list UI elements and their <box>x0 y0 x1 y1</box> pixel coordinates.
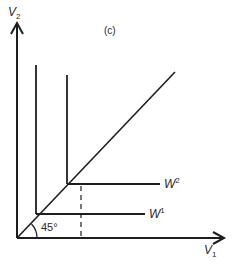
x-axis <box>17 232 224 244</box>
x-axis-label: V1 <box>204 244 216 259</box>
y-axis-label-subscript: 2 <box>16 12 20 21</box>
curve-label-w2: W2 <box>164 177 180 190</box>
y-axis <box>11 23 23 238</box>
y-axis-label-text: V <box>8 5 16 19</box>
x-axis-label-subscript: 1 <box>212 250 216 259</box>
indifference-diagram <box>0 0 232 264</box>
x-axis-label-text: V <box>204 243 212 257</box>
curve-label-w1-text: W <box>149 207 160 221</box>
curve-label-w2-superscript: 2 <box>175 176 179 185</box>
curve-label-w1-superscript: 1 <box>160 206 164 215</box>
curve-label-w2-text: W <box>164 177 175 191</box>
angle-arc <box>32 224 38 238</box>
y-axis-label: V2 <box>8 6 20 21</box>
contour-w2 <box>67 75 160 184</box>
contour-w1 <box>36 65 145 214</box>
angle-label: 45° <box>41 222 58 233</box>
panel-label: (c) <box>104 26 116 36</box>
curve-label-w1: W1 <box>149 207 165 220</box>
